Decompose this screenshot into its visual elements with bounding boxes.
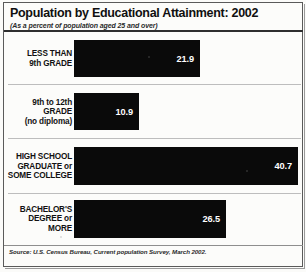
bar-category-label-line: LESS THAN <box>4 49 72 58</box>
bar-category-label: LESS THAN 9th GRADE <box>4 49 72 68</box>
bar-value-label: 40.7 <box>275 161 298 171</box>
bar-category-label-line: MORE <box>4 224 72 233</box>
bar-value-label: 10.9 <box>116 107 139 117</box>
bar-category-label-line: BACHELOR'S <box>4 205 72 214</box>
bar-bachelors-degree: 26.5 <box>74 200 226 238</box>
bar-row-9th-to-12th-grade: 9th to 12th GRADE (no diploma) 10.9 <box>4 85 303 139</box>
bar-category-label-line: SOME COLLEGE <box>4 171 72 180</box>
bar-category-label: HIGH SCHOOL GRADUATE or SOME COLLEGE <box>4 152 72 180</box>
bar-row-high-school-graduate: HIGH SCHOOL GRADUATE or SOME COLLEGE 40.… <box>4 139 303 194</box>
bar-row-less-than-9th-grade: LESS THAN 9th GRADE 21.9 <box>4 32 303 85</box>
bar-category-label: 9th to 12th GRADE (no diploma) <box>4 98 72 126</box>
bar-9th-to-12th-grade: 10.9 <box>74 93 139 130</box>
chart-figure: Population by Educational Attainment: 20… <box>0 0 306 272</box>
source-note: Source: U.S. Census Bureau, Current popu… <box>9 248 206 255</box>
chart-subtitle: (As a percent of population aged 25 and … <box>10 21 302 30</box>
bar-category-label-line: (no diploma) <box>4 117 72 126</box>
bar-category-label-line: GRADE <box>4 107 72 116</box>
chart-header: Population by Educational Attainment: 20… <box>4 3 302 32</box>
page-title: Population by Educational Attainment: 20… <box>10 6 302 20</box>
chart-plot-area: LESS THAN 9th GRADE 21.9 9th to 12th GRA… <box>4 32 303 244</box>
bar-category-label-line: GRADUATE or <box>4 162 72 171</box>
bar-value-label: 26.5 <box>203 214 226 224</box>
bar-category-label-line: DEGREE or <box>4 214 72 223</box>
bar-category-label-line: 9th to 12th <box>4 98 72 107</box>
bar-row-bachelors-degree: BACHELOR'S DEGREE or MORE 26.5 <box>4 194 303 244</box>
footer-divider <box>4 245 303 246</box>
bar-value-label: 21.9 <box>177 54 200 64</box>
bar-category-label: BACHELOR'S DEGREE or MORE <box>4 205 72 233</box>
bar-less-than-9th-grade: 21.9 <box>74 40 200 77</box>
bar-category-label-line: 9th GRADE <box>4 59 72 68</box>
bar-category-label-line: HIGH SCHOOL <box>4 152 72 161</box>
bar-high-school-graduate: 40.7 <box>74 147 298 185</box>
